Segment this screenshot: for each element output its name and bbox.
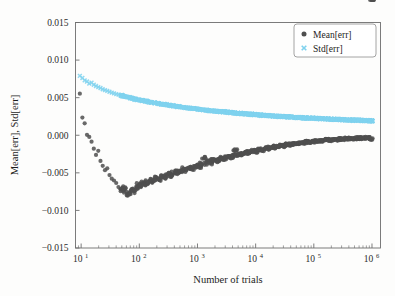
chart-legend[interactable]: Mean[err]Std[err]: [294, 24, 376, 57]
data-point: [128, 192, 132, 196]
y-tick-label: 0.005: [47, 93, 69, 103]
y-axis-title: Mean[err], Std[err]: [9, 95, 20, 175]
data-point: [153, 175, 157, 179]
y-tick-label: −0.010: [42, 206, 69, 216]
data-point: [101, 164, 105, 168]
legend-label: Mean[err]: [313, 30, 352, 40]
data-point: [114, 181, 118, 185]
y-tick-label: −0.005: [42, 168, 69, 178]
data-point: [124, 186, 128, 190]
svg-text:10: 10: [73, 254, 83, 264]
data-point: [92, 147, 96, 151]
data-point: [168, 175, 172, 179]
y-tick-label: 0.000: [47, 131, 69, 141]
legend-label: Std[err]: [313, 44, 343, 54]
svg-text:2: 2: [143, 252, 146, 259]
x-axis-title: Number of trials: [193, 274, 262, 285]
data-point: [107, 173, 111, 177]
data-point: [89, 140, 93, 144]
svg-text:10: 10: [131, 254, 141, 264]
svg-text:5: 5: [318, 252, 321, 259]
svg-text:1: 1: [85, 252, 88, 259]
data-point: [96, 149, 100, 153]
chart-screenshot: 0.0150.0100.0050.000−0.005−0.010−0.015 1…: [0, 0, 395, 296]
y-tick-label: 0.015: [47, 18, 69, 28]
y-tick-label: −0.015: [42, 243, 69, 253]
data-point: [203, 155, 207, 159]
data-point: [105, 166, 109, 170]
y-tick-label: 0.010: [47, 55, 69, 65]
data-point: [98, 159, 102, 163]
scatter-plot: 0.0150.0100.0050.000−0.005−0.010−0.015 1…: [0, 0, 395, 296]
data-point: [94, 153, 98, 157]
svg-text:10: 10: [189, 254, 199, 264]
svg-text:10: 10: [247, 254, 257, 264]
svg-text:10: 10: [306, 254, 316, 264]
svg-text:3: 3: [201, 252, 204, 259]
data-point: [78, 92, 82, 96]
data-point: [80, 115, 84, 119]
data-point: [370, 136, 374, 140]
data-point: [87, 135, 91, 139]
legend-marker-circle-icon: [302, 32, 307, 37]
data-point: [83, 121, 87, 125]
svg-text:10: 10: [364, 254, 374, 264]
